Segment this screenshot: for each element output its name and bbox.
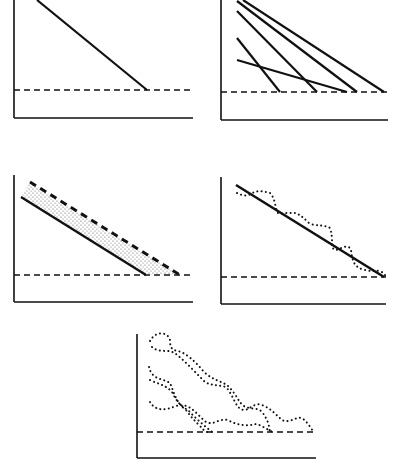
decline-line — [237, 60, 347, 92]
wavy-dotted-line — [152, 347, 315, 432]
decline-line — [243, 0, 384, 92]
wavy-dotted-line — [149, 367, 207, 432]
decline-line — [237, 38, 280, 92]
panel-2 — [221, 0, 388, 120]
upper-dashed-line — [30, 182, 180, 275]
panel-3 — [14, 175, 193, 302]
panel-5 — [137, 333, 316, 458]
figure-canvas — [0, 0, 397, 472]
trend-line — [236, 185, 384, 277]
panel-4 — [221, 177, 386, 304]
lower-solid-line — [21, 197, 146, 275]
wavy-dotted-line — [150, 402, 274, 432]
decline-line — [37, 0, 147, 90]
panel-1 — [14, 0, 193, 118]
